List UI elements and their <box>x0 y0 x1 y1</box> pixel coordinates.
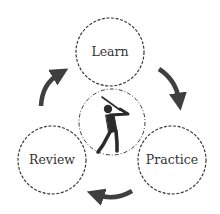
practice-label: Practice <box>146 152 198 167</box>
learning-cycle-diagram: Learn Review Practice <box>0 0 220 214</box>
node-review: Review <box>18 126 86 194</box>
learn-label: Learn <box>91 44 128 59</box>
review-label: Review <box>29 152 75 167</box>
golfer-swing-icon <box>98 97 128 152</box>
arrow-practice-to-review-icon <box>97 191 132 197</box>
arrow-review-to-learn-icon <box>41 74 59 106</box>
arrow-learn-to-practice-icon <box>159 69 179 100</box>
center-node <box>79 89 145 155</box>
node-learn: Learn <box>76 18 144 86</box>
node-practice: Practice <box>138 126 206 194</box>
